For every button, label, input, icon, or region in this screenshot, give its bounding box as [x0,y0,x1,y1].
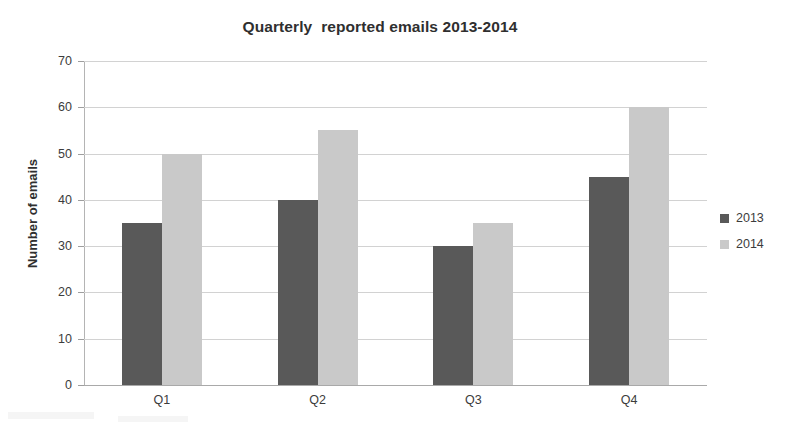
y-axis-tick-mark [78,246,84,247]
scan-artifact [118,416,188,422]
bar-q2-2014 [318,130,358,385]
legend-swatch-icon-2013 [720,214,729,223]
y-axis-tick-mark [78,107,84,108]
y-axis-tick-labels: 706050403020100 [38,0,72,430]
bar-q4-2014 [629,107,669,385]
x-axis-label-q4: Q4 [599,393,659,407]
y-axis-tick-label: 10 [42,332,72,346]
y-axis-tick-mark [78,61,84,62]
legend-label-2013: 2013 [736,211,764,225]
y-axis-tick-label: 60 [42,100,72,114]
bar-q3-2014 [473,223,513,385]
chart-legend: 20132014 [720,205,790,257]
bar-q4-2013 [589,177,629,385]
legend-swatch-icon-2014 [720,240,729,249]
plot-area [84,61,707,385]
scan-artifact [8,412,94,419]
bar-q1-2014 [162,154,202,385]
y-axis-tick-label: 40 [42,193,72,207]
y-axis-tick-label: 70 [42,54,72,68]
y-axis-tick-mark [78,385,84,386]
y-axis-tick-label: 0 [42,378,72,392]
bar-q1-2013 [122,223,162,385]
legend-item-2013[interactable]: 2013 [720,205,790,231]
bar-chart-figure: Quarterly reported emails 2013-2014 Numb… [0,0,796,430]
bar-q3-2013 [433,246,473,385]
y-axis-tick-mark [78,200,84,201]
y-axis-tick-mark [78,154,84,155]
x-axis-label-q2: Q2 [288,393,348,407]
bar-q2-2013 [278,200,318,385]
legend-item-2014[interactable]: 2014 [720,231,790,257]
gridline [84,385,707,386]
y-axis-tick-mark [78,339,84,340]
x-axis-label-q3: Q3 [443,393,503,407]
chart-title: Quarterly reported emails 2013-2014 [0,18,760,36]
gridline [84,107,707,108]
x-axis-label-q1: Q1 [132,393,192,407]
gridline [84,61,707,62]
y-axis-tick-label: 20 [42,285,72,299]
y-axis-tick-mark [78,292,84,293]
y-axis-tick-label: 30 [42,239,72,253]
y-axis-tick-label: 50 [42,147,72,161]
legend-label-2014: 2014 [736,237,764,251]
